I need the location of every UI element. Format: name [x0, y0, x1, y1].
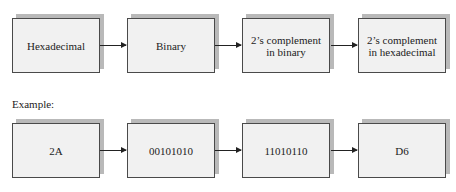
arrow-right-icon [100, 150, 126, 151]
example-step-binary: 00101010 [127, 123, 215, 178]
example-step-label: 11010110 [242, 123, 330, 178]
example-step-label: 2A [12, 123, 100, 178]
flow-step-binary: Binary [127, 18, 215, 73]
flow-step-label: 2’s complement in hexadecimal [358, 18, 446, 73]
example-step-label: D6 [358, 123, 446, 178]
flow-step-hexadecimal: Hexadecimal [12, 18, 100, 73]
arrow-right-icon [331, 45, 357, 46]
example-step-twos-complement-hex: D6 [358, 123, 446, 178]
arrow-right-icon [215, 45, 241, 46]
flow-step-label: Binary [127, 18, 215, 73]
arrow-right-icon [215, 150, 241, 151]
example-heading: Example: [12, 98, 54, 110]
flow-step-label: Hexadecimal [12, 18, 100, 73]
flow-step-twos-complement-binary: 2’s complement in binary [242, 18, 330, 73]
example-step-twos-complement-binary: 11010110 [242, 123, 330, 178]
flow-step-label: 2’s complement in binary [242, 18, 330, 73]
flow-step-twos-complement-hex: 2’s complement in hexadecimal [358, 18, 446, 73]
example-step-hex: 2A [12, 123, 100, 178]
arrow-right-icon [100, 45, 126, 46]
arrow-right-icon [331, 150, 357, 151]
example-step-label: 00101010 [127, 123, 215, 178]
